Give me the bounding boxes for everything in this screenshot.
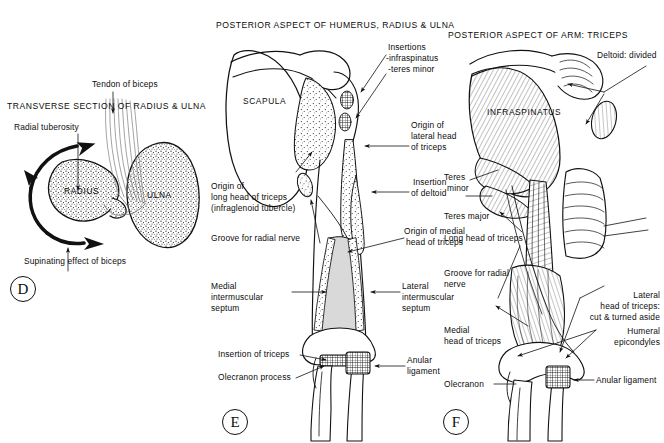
panel-f-title: POSTERIOR ASPECT OF ARM: TRICEPS xyxy=(448,30,628,40)
label-anular-ligament-f: Anular ligament xyxy=(596,375,656,385)
label-long-head-of-triceps: Long head of triceps xyxy=(444,233,523,243)
label-anular-ligament-e-l2: ligament xyxy=(407,366,440,376)
label-humeral-epicondyles-l1: Humeral xyxy=(556,326,660,336)
panel-badge-e: E xyxy=(222,409,248,435)
label-supinating-effect-of-biceps: Supinating effect of biceps xyxy=(24,256,126,266)
label-teres-minor-l2: minor xyxy=(447,183,469,193)
label-tendon-of-biceps: Tendon of biceps xyxy=(92,79,158,89)
label-medial-septum-l1: Medial xyxy=(211,281,237,291)
label-insertion-teres-minor: -teres minor xyxy=(388,64,434,74)
label-insertion-infraspinatus: -infraspinatus xyxy=(386,53,438,63)
label-lateral-head-cut-l3: cut & turned aside xyxy=(548,312,660,322)
label-lateral-septum-l3: septum xyxy=(402,303,430,313)
label-origin-long-head-l2: long head of triceps xyxy=(211,192,287,202)
panel-badge-f: F xyxy=(443,409,469,435)
panel-e-artwork xyxy=(226,51,409,441)
muscle-label-infraspinatus: INFRASPINATUS xyxy=(487,107,561,117)
panel-d-artwork xyxy=(24,92,199,271)
label-groove-for-radial-nerve: Groove for radial nerve xyxy=(211,233,300,243)
anatomy-line-art xyxy=(0,0,664,443)
label-origin-long-head-l3: (infraglenoid tubercle) xyxy=(211,203,295,213)
label-origin-lateral-head-l3: of triceps xyxy=(411,142,446,152)
label-origin-lateral-head-l1: Origin of xyxy=(411,120,444,130)
label-medial-septum-l3: septum xyxy=(211,303,239,313)
label-lateral-septum-l1: Lateral xyxy=(402,281,429,291)
label-olecranon-process: Olecranon process xyxy=(218,372,291,382)
label-deltoid-divided: Deltoid: divided xyxy=(597,50,657,60)
bone-label-scapula: SCAPULA xyxy=(243,96,286,106)
label-lateral-head-cut-l1: Lateral xyxy=(548,290,660,300)
label-insertions: Insertions xyxy=(388,42,426,52)
label-origin-long-head-l1: Origin of xyxy=(211,181,244,191)
panel-e-title: POSTERIOR ASPECT OF HUMERUS, RADIUS & UL… xyxy=(216,20,455,30)
label-groove-radial-nerve-f-l1: Groove for radial xyxy=(444,268,509,278)
label-teres-minor-l1: Teres xyxy=(444,172,465,182)
bone-label-radius: RADIUS xyxy=(64,186,99,196)
label-insertion-of-deltoid-l2: of deltoid xyxy=(411,188,447,198)
label-teres-major: Teres major xyxy=(444,211,489,221)
label-radial-tuberosity: Radial tuberosity xyxy=(14,122,79,132)
bone-label-ulna: ULNA xyxy=(147,190,172,200)
label-lateral-septum-l2: intermuscular xyxy=(402,292,454,302)
label-insertion-of-triceps: Insertion of triceps xyxy=(218,349,289,359)
label-medial-head-of-triceps-l2: head of triceps xyxy=(444,336,501,346)
label-humeral-epicondyles-l2: epicondyles xyxy=(556,337,660,347)
label-insertion-of-deltoid-l1: Insertion xyxy=(413,177,446,187)
label-anular-ligament-e-l1: Anular xyxy=(407,355,432,365)
label-lateral-head-cut-l2: head of triceps: xyxy=(548,301,660,311)
panel-d-title: TRANSVERSE SECTION OF RADIUS & ULNA xyxy=(7,101,206,111)
label-groove-radial-nerve-f-l2: nerve xyxy=(444,279,466,289)
illustration-canvas: TRANSVERSE SECTION OF RADIUS & ULNA Tend… xyxy=(0,0,664,443)
label-medial-septum-l2: intermuscular xyxy=(211,292,263,302)
panel-badge-d: D xyxy=(10,276,36,302)
label-medial-head-of-triceps-l1: Medial xyxy=(444,325,470,335)
label-olecranon-f: Olecranon xyxy=(444,379,484,389)
label-origin-lateral-head-l2: lateral head xyxy=(411,131,457,141)
